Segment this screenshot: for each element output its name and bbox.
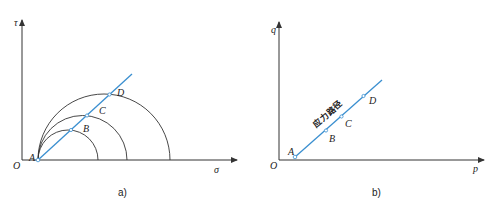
sigma-axis-label: σ [214,164,220,175]
tau-axis-label: τ [14,17,18,28]
point-c-marker [85,114,88,117]
point-a-label: A [28,152,36,163]
point-b-label: B [83,123,89,134]
caption-a: a) [118,187,127,198]
point-d-label: D [116,87,125,98]
caption-b: b) [372,187,381,198]
stress-path-line-b [295,80,382,157]
point-d-label-b: D [368,95,377,106]
point-b-label-b: B [329,133,335,144]
point-a-label-b: A [287,146,295,157]
point-c-marker-b [340,115,343,118]
q-axis-label: q [271,24,276,35]
p-axis-label: p [472,163,478,174]
point-d-marker [108,93,111,96]
point-c-label-b: C [345,118,352,129]
stress-path-label: 应力路径 [311,98,345,129]
stress-path-figure: τ σ O A B C D a) q p O A B C D 应力路径 b) [0,0,491,213]
panel-b-pq-plot: q p O A B C D 应力路径 b) [270,22,484,198]
panel-a-mohr-circles: τ σ O A B C D a) [13,17,237,198]
mohr-circle-large [38,94,170,160]
point-b-marker-b [324,129,327,132]
point-b-marker [69,128,72,131]
point-a-marker [36,158,40,162]
origin-label-a: O [13,160,20,171]
point-d-marker-b [362,94,365,97]
origin-label-b: O [270,160,277,171]
point-c-label: C [99,105,106,116]
mohr-circle-small [38,130,98,160]
